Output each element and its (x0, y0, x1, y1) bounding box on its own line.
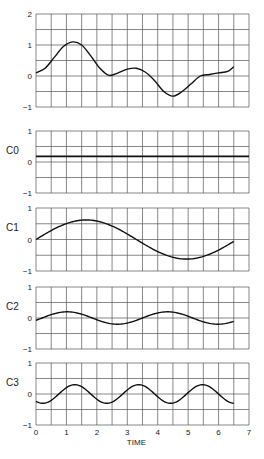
y-tick-label: 1 (28, 127, 33, 136)
x-tick-label: 4 (155, 428, 160, 437)
x-tick-label: 3 (125, 428, 130, 437)
panel-label: C3 (6, 377, 19, 388)
y-tick-label: −1 (23, 267, 33, 276)
series-line (36, 42, 234, 96)
panel-label: C2 (6, 301, 19, 312)
panel-c1: 10−1C1 (6, 204, 249, 276)
y-tick-label: 1 (28, 359, 33, 368)
y-tick-label: 1 (28, 204, 33, 213)
panel-label: C0 (6, 145, 19, 156)
x-tick-label: 2 (95, 428, 100, 437)
y-tick-label: 0 (28, 314, 33, 323)
y-tick-label: 1 (28, 283, 33, 292)
panel-label: C1 (6, 222, 19, 233)
y-tick-label: −1 (23, 189, 33, 198)
x-tick-label: 1 (64, 428, 69, 437)
y-tick-label: −1 (23, 345, 33, 354)
y-tick-label: 0 (28, 72, 33, 81)
x-axis-label: TIME (127, 438, 146, 447)
y-tick-label: 0 (28, 390, 33, 399)
y-tick-label: 1 (28, 41, 33, 50)
x-tick-label: 7 (247, 428, 252, 437)
y-tick-label: 0 (28, 236, 33, 245)
x-tick-label: 5 (186, 428, 191, 437)
x-tick-label: 0 (34, 428, 39, 437)
x-tick-label: 6 (216, 428, 221, 437)
panel-c2: 10−1C2 (6, 283, 249, 354)
y-tick-label: −1 (23, 421, 33, 430)
y-tick-label: 0 (28, 158, 33, 167)
panel-c3: 10−1C3 (6, 359, 249, 430)
y-tick-label: −1 (23, 103, 33, 112)
panel-c0: 10−1C0 (6, 127, 249, 198)
multi-panel-time-series-chart: 210−110−1C010−1C110−1C210−1C301234567TIM… (0, 0, 264, 459)
y-tick-label: 2 (28, 10, 33, 19)
panel-signal: 210−1 (23, 10, 249, 112)
